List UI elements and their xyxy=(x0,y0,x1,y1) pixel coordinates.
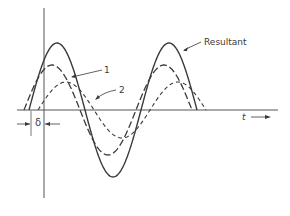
t-axis-label: t xyxy=(242,112,246,122)
wave2-label: 2 xyxy=(119,85,125,95)
wave2-leader-arrowhead-icon xyxy=(95,95,100,100)
t-arrowhead-icon xyxy=(265,115,271,119)
wave1-leader-arrowhead-icon xyxy=(71,74,76,78)
delta-left-arrowhead-icon xyxy=(25,122,30,126)
wave1-leader-line xyxy=(72,70,102,77)
wave1-label: 1 xyxy=(104,65,110,75)
resultant-label: Resultant xyxy=(204,37,247,47)
delta-right-arrowhead-icon xyxy=(45,122,50,126)
wave-superposition-diagram xyxy=(0,0,290,216)
resultant-leader-arrowhead-icon xyxy=(183,47,188,51)
delta-label: δ xyxy=(35,118,41,128)
